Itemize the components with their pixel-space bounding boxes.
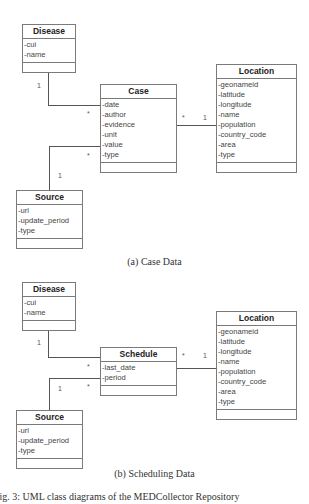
attribute: -url — [17, 206, 82, 216]
attribute: -period — [101, 373, 176, 383]
attribute-list: -last_date -period — [101, 362, 176, 386]
class-name: Source — [17, 411, 82, 425]
attribute: -longitude — [217, 100, 296, 110]
attribute: -evidence — [101, 120, 176, 130]
class-name: Schedule — [101, 348, 176, 362]
attribute-list: -url -update_period -type — [17, 205, 82, 239]
class-name: Disease — [23, 25, 75, 39]
multiplicity-label: 1 — [37, 82, 41, 89]
assoc-line-source-schedule — [49, 378, 50, 410]
attribute: -cui — [23, 298, 75, 308]
attribute: -area — [217, 387, 296, 397]
attribute: -last_date — [101, 363, 176, 373]
assoc-line-disease-schedule — [48, 330, 49, 358]
attribute: -url — [17, 426, 82, 436]
assoc-line-source-case — [49, 146, 100, 147]
attribute: -name — [23, 308, 75, 318]
attribute-list: -cui -name — [23, 39, 75, 63]
attribute: -geonameid — [217, 327, 296, 337]
attribute: -type — [217, 150, 296, 160]
multiplicity-label: 1 — [37, 339, 41, 346]
attribute-list: -geonameid -latitude -longitude -name -p… — [217, 79, 296, 163]
attribute: -date — [101, 100, 176, 110]
class-case: Case -date -author -evidence -unit -valu… — [100, 84, 177, 173]
attribute: -type — [101, 150, 176, 160]
attribute: -type — [17, 226, 82, 236]
class-location: Location -geonameid -latitude -longitude… — [216, 64, 297, 173]
figure-caption: Fig. 3: UML class diagrams of the MEDCol… — [0, 491, 309, 502]
assoc-line-disease-schedule — [48, 357, 100, 358]
multiplicity-label: * — [182, 352, 185, 359]
class-name: Source — [17, 191, 82, 205]
attribute: -country_code — [217, 377, 296, 387]
operations-compartment — [217, 163, 296, 172]
multiplicity-label: * — [87, 110, 90, 117]
class-name: Location — [217, 312, 296, 326]
attribute: -population — [217, 120, 296, 130]
assoc-line-disease-case — [48, 72, 49, 106]
assoc-line-schedule-location — [176, 368, 216, 369]
attribute-list: -geonameid -latitude -longitude -name -p… — [217, 326, 296, 410]
multiplicity-label: 1 — [203, 114, 207, 121]
class-name: Disease — [23, 283, 75, 297]
assoc-line-case-location — [176, 125, 216, 126]
operations-compartment — [23, 321, 75, 330]
attribute: -update_period — [17, 216, 82, 226]
class-disease: Disease -cui -name — [22, 24, 76, 73]
attribute-list: -date -author -evidence -unit -value -ty… — [101, 99, 176, 163]
attribute: -area — [217, 140, 296, 150]
attribute: -update_period — [17, 436, 82, 446]
attribute-list: -url -update_period -type — [17, 425, 82, 459]
attribute: -name — [217, 357, 296, 367]
class-name: Location — [217, 65, 296, 79]
attribute: -population — [217, 367, 296, 377]
multiplicity-label: * — [182, 114, 185, 121]
attribute: -cui — [23, 40, 75, 50]
attribute: -latitude — [217, 90, 296, 100]
multiplicity-label: 1 — [58, 172, 62, 179]
attribute-list: -cui -name — [23, 297, 75, 321]
attribute: -name — [23, 50, 75, 60]
attribute: -type — [17, 446, 82, 456]
attribute: -latitude — [217, 337, 296, 347]
attribute: -geonameid — [217, 80, 296, 90]
attribute: -author — [101, 110, 176, 120]
operations-compartment — [17, 239, 82, 248]
subfigure-caption: (a) Case Data — [0, 256, 309, 267]
operations-compartment — [217, 410, 296, 419]
multiplicity-label: 1 — [58, 385, 62, 392]
subfigure-caption: (b) Scheduling Data — [0, 468, 309, 479]
operations-compartment — [101, 163, 176, 172]
operations-compartment — [17, 459, 82, 468]
attribute: -unit — [101, 130, 176, 140]
class-source: Source -url -update_period -type — [16, 190, 83, 249]
class-disease: Disease -cui -name — [22, 282, 76, 331]
attribute: -name — [217, 110, 296, 120]
multiplicity-label: * — [87, 363, 90, 370]
attribute: -type — [217, 397, 296, 407]
operations-compartment — [101, 386, 176, 395]
class-location: Location -geonameid -latitude -longitude… — [216, 311, 297, 420]
multiplicity-label: * — [87, 152, 90, 159]
operations-compartment — [23, 63, 75, 72]
attribute: -value — [101, 140, 176, 150]
attribute: -country_code — [217, 130, 296, 140]
attribute: -longitude — [217, 347, 296, 357]
class-name: Case — [101, 85, 176, 99]
class-schedule: Schedule -last_date -period — [100, 347, 177, 396]
multiplicity-label: * — [87, 383, 90, 390]
class-source: Source -url -update_period -type — [16, 410, 83, 469]
assoc-line-source-schedule — [49, 378, 100, 379]
assoc-line-source-case — [49, 146, 50, 190]
multiplicity-label: 1 — [203, 352, 207, 359]
assoc-line-disease-case — [48, 105, 100, 106]
